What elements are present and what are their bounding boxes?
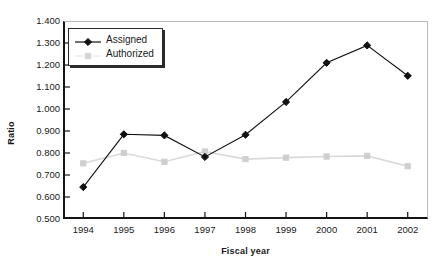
- legend-label: Authorized: [106, 48, 154, 60]
- y-axis-tick-label: 0.600: [22, 192, 60, 202]
- data-point-marker: [243, 157, 248, 162]
- y-axis-tick-labels: 0.5000.6000.7000.8000.9001.0001.1001.200…: [22, 21, 60, 219]
- x-axis-title: Fiscal year: [63, 246, 428, 256]
- x-axis-tick-label: 1999: [263, 224, 309, 236]
- legend-square-icon: [74, 48, 102, 60]
- y-axis-tick-label: 0.700: [22, 170, 60, 180]
- y-axis-title: Ratio: [0, 0, 22, 266]
- x-axis-tick-label: 1997: [182, 224, 228, 236]
- legend-item-assigned: Assigned: [74, 33, 154, 47]
- data-point-marker: [283, 155, 288, 160]
- data-point-marker: [365, 153, 370, 158]
- legend-item-authorized: Authorized: [74, 47, 154, 61]
- legend-diamond-icon: [74, 34, 102, 46]
- y-axis-tick-label: 0.800: [22, 148, 60, 158]
- x-axis-tick-labels: 199419951996199719981999200020012002: [63, 224, 428, 238]
- legend-marker: [84, 38, 91, 45]
- x-axis-tick-label: 1998: [223, 224, 269, 236]
- series-line-assigned: [83, 45, 407, 187]
- y-axis-tick-label: 1.100: [22, 82, 60, 92]
- legend-label: Assigned: [106, 34, 147, 46]
- legend-marker: [85, 53, 90, 58]
- y-axis-tick-label: 1.200: [22, 60, 60, 70]
- x-axis-tick-label: 2000: [304, 224, 350, 236]
- y-axis-tick-label: 0.500: [22, 214, 60, 224]
- chart-legend: AssignedAuthorized: [68, 28, 163, 66]
- x-axis-tick-label: 2001: [344, 224, 390, 236]
- y-axis-tick-label: 1.300: [22, 38, 60, 48]
- x-axis-tick-label: 2002: [385, 224, 431, 236]
- x-axis-tick-label: 1996: [141, 224, 187, 236]
- series-authorized: [81, 149, 411, 169]
- data-point-marker: [162, 159, 167, 164]
- x-axis-tick-label: 1994: [60, 224, 106, 236]
- data-point-marker: [405, 164, 410, 169]
- data-point-marker: [161, 132, 168, 139]
- y-axis-tick-label: 0.900: [22, 126, 60, 136]
- data-point-marker: [121, 150, 126, 155]
- x-axis-tick-label: 1995: [101, 224, 147, 236]
- y-axis-tick-label: 1.400: [22, 16, 60, 26]
- chart-figure: Ratio 0.5000.6000.7000.8000.9001.0001.10…: [0, 0, 445, 266]
- data-point-marker: [81, 161, 86, 166]
- y-axis-tick-label: 1.000: [22, 104, 60, 114]
- data-point-marker: [324, 154, 329, 159]
